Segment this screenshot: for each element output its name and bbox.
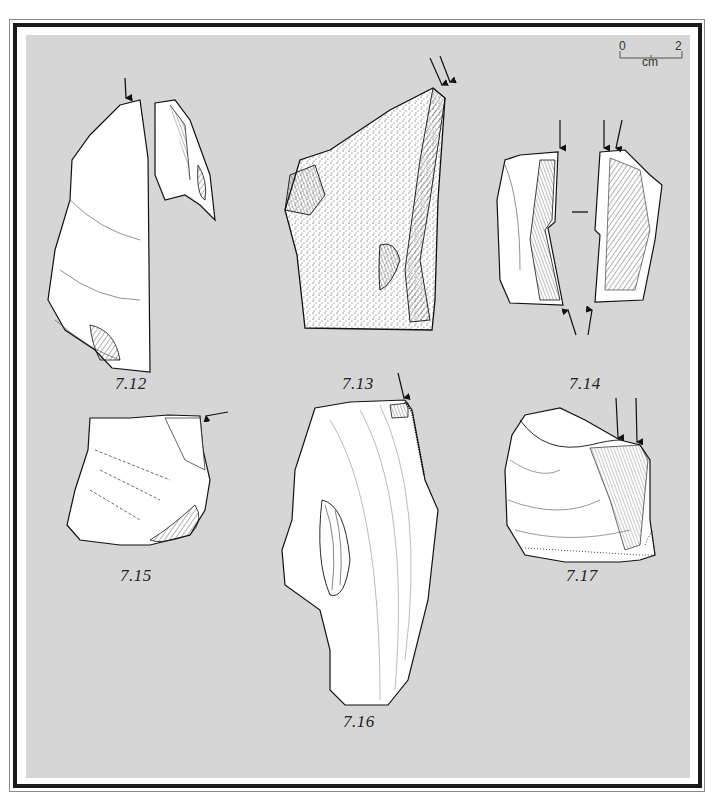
artifact-7-16-drawing: [282, 373, 438, 705]
artifact-drawings: [0, 0, 713, 796]
artifact-7-12-drawing: [48, 78, 215, 372]
caption-7-12: 7.12: [115, 374, 147, 394]
caption-7-14: 7.14: [569, 374, 601, 394]
artifact-7-14-drawing: [497, 120, 662, 335]
artifact-7-13-drawing: [285, 56, 450, 330]
artifact-7-15-drawing: [67, 412, 228, 545]
caption-7-13: 7.13: [342, 374, 374, 394]
caption-7-17: 7.17: [566, 566, 598, 586]
artifact-7-17-drawing: [505, 398, 655, 562]
caption-7-15: 7.15: [120, 566, 152, 586]
caption-7-16: 7.16: [343, 712, 375, 732]
